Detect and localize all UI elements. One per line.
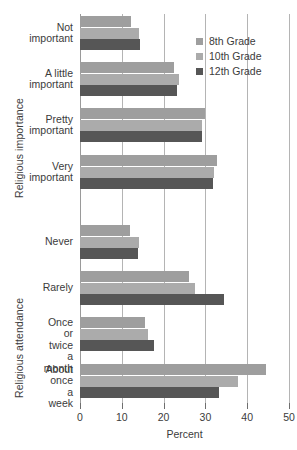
- category-row: Pretty important: [80, 108, 289, 142]
- bar-12th-grade: [80, 340, 154, 351]
- bar-10th-grade: [80, 283, 195, 294]
- x-tick-label-40: 40: [241, 411, 253, 423]
- x-tick-10: [122, 403, 123, 409]
- x-tick-label-20: 20: [158, 411, 170, 423]
- legend-label: 12th Grade: [209, 65, 262, 77]
- bar-8th-grade: [80, 108, 205, 119]
- bar-10th-grade: [80, 120, 202, 131]
- category-label: Never: [45, 236, 73, 248]
- bar-12th-grade: [80, 294, 224, 305]
- x-tick-0: [80, 403, 81, 409]
- category-label: Not important: [29, 22, 73, 45]
- legend-item-12th-grade[interactable]: 12th Grade: [196, 64, 292, 78]
- legend-label: 10th Grade: [209, 50, 262, 62]
- bar-8th-grade: [80, 271, 189, 282]
- chart-legend: 8th Grade10th Grade12th Grade: [196, 34, 292, 79]
- x-axis-label: Percent: [80, 428, 289, 440]
- y-axis-title-religious-importance: Religious importance: [13, 98, 25, 198]
- bar-12th-grade: [80, 39, 140, 50]
- grouped-bar-chart: Religious importance Religious attendanc…: [0, 0, 297, 450]
- x-tick-label-50: 50: [283, 411, 295, 423]
- bar-8th-grade: [80, 155, 217, 166]
- bar-10th-grade: [80, 74, 179, 85]
- bar-8th-grade: [80, 225, 130, 236]
- bar-10th-grade: [80, 28, 139, 39]
- category-row: Once or twice a month: [80, 317, 289, 351]
- bar-8th-grade: [80, 317, 145, 328]
- category-row: About once a week: [80, 364, 289, 398]
- bar-8th-grade: [80, 364, 266, 375]
- legend-item-10th-grade[interactable]: 10th Grade: [196, 49, 292, 63]
- bar-10th-grade: [80, 237, 139, 248]
- category-label: Very important: [29, 161, 73, 184]
- x-tick-label-10: 10: [116, 411, 128, 423]
- x-tick-30: [205, 403, 206, 409]
- bar-12th-grade: [80, 248, 138, 259]
- category-row: Very important: [80, 155, 289, 189]
- x-tick-20: [164, 403, 165, 409]
- x-tick-40: [247, 403, 248, 409]
- y-axis-title-religious-attendance: Religious attendance: [13, 298, 25, 398]
- x-tick-label-30: 30: [200, 411, 212, 423]
- bar-10th-grade: [80, 376, 238, 387]
- category-label: Pretty important: [29, 114, 73, 137]
- category-row: Rarely: [80, 271, 289, 305]
- legend-swatch-icon: [196, 38, 203, 45]
- bar-12th-grade: [80, 85, 177, 96]
- x-tick-label-0: 0: [77, 411, 83, 423]
- bar-12th-grade: [80, 178, 213, 189]
- bar-8th-grade: [80, 62, 174, 73]
- category-label: Rarely: [43, 282, 73, 294]
- bar-8th-grade: [80, 16, 131, 27]
- category-row: Never: [80, 225, 289, 259]
- bar-10th-grade: [80, 167, 214, 178]
- x-axis-line: [80, 407, 289, 408]
- bar-12th-grade: [80, 387, 219, 398]
- legend-swatch-icon: [196, 53, 203, 60]
- x-tick-50: [289, 403, 290, 409]
- category-label: About once a week: [46, 364, 73, 410]
- bar-10th-grade: [80, 329, 148, 340]
- category-label: A little important: [29, 68, 73, 91]
- bar-12th-grade: [80, 131, 202, 142]
- legend-swatch-icon: [196, 68, 203, 75]
- legend-item-8th-grade[interactable]: 8th Grade: [196, 34, 292, 48]
- legend-label: 8th Grade: [209, 35, 256, 47]
